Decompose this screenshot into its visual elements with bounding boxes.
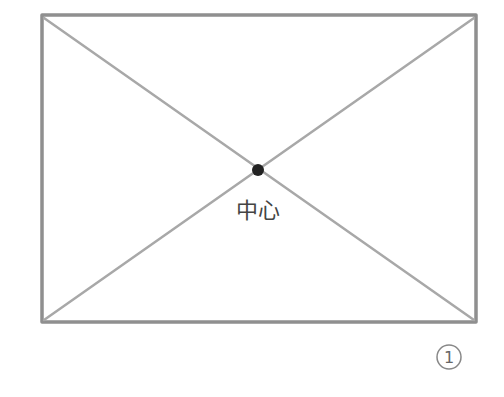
center-label: 中心	[236, 198, 280, 223]
rectangle-diagram: 中心 1	[0, 0, 504, 397]
figure-number: 1	[444, 348, 454, 367]
center-dot	[252, 164, 264, 176]
